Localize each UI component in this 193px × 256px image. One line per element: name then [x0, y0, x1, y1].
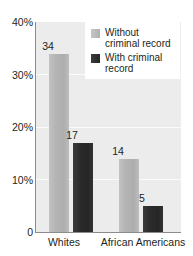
- y-tick-40: 40%: [0, 17, 33, 27]
- x-label-whites: Whites: [33, 236, 95, 248]
- legend-item-with-record[interactable]: With criminal record: [91, 52, 176, 74]
- y-tick-0: 0: [0, 227, 33, 237]
- legend-swatch-dark-icon: [91, 54, 100, 63]
- bar-african-americans-with-record[interactable]: [143, 206, 163, 232]
- legend-label-with-record: With criminal record: [105, 52, 176, 74]
- y-tick-20: 20%: [0, 122, 33, 132]
- legend-item-without-record[interactable]: Without criminal record: [91, 27, 176, 49]
- bar-value-african-americans-without-record: 14: [108, 146, 128, 157]
- bar-whites-with-record[interactable]: [73, 143, 93, 232]
- x-axis-line: [35, 232, 181, 233]
- y-tick-10: 10%: [0, 175, 33, 185]
- bar-value-whites-with-record: 17: [62, 130, 82, 141]
- bar-value-african-americans-with-record: 5: [132, 193, 152, 204]
- y-axis: 40% 30% 20% 10% 0: [0, 0, 33, 256]
- legend-swatch-light-icon: [91, 29, 100, 38]
- y-tick-30: 30%: [0, 70, 33, 80]
- bar-chart-figure: 40% 30% 20% 10% 0 34 17 14 5 Whites Afri…: [0, 0, 193, 256]
- legend-label-without-record: Without criminal record: [105, 27, 176, 49]
- bar-value-whites-without-record: 34: [38, 41, 58, 52]
- legend: Without criminal record With criminal re…: [85, 22, 180, 79]
- bar-whites-without-record[interactable]: [49, 54, 69, 233]
- x-label-african-americans: African Americans: [97, 236, 189, 248]
